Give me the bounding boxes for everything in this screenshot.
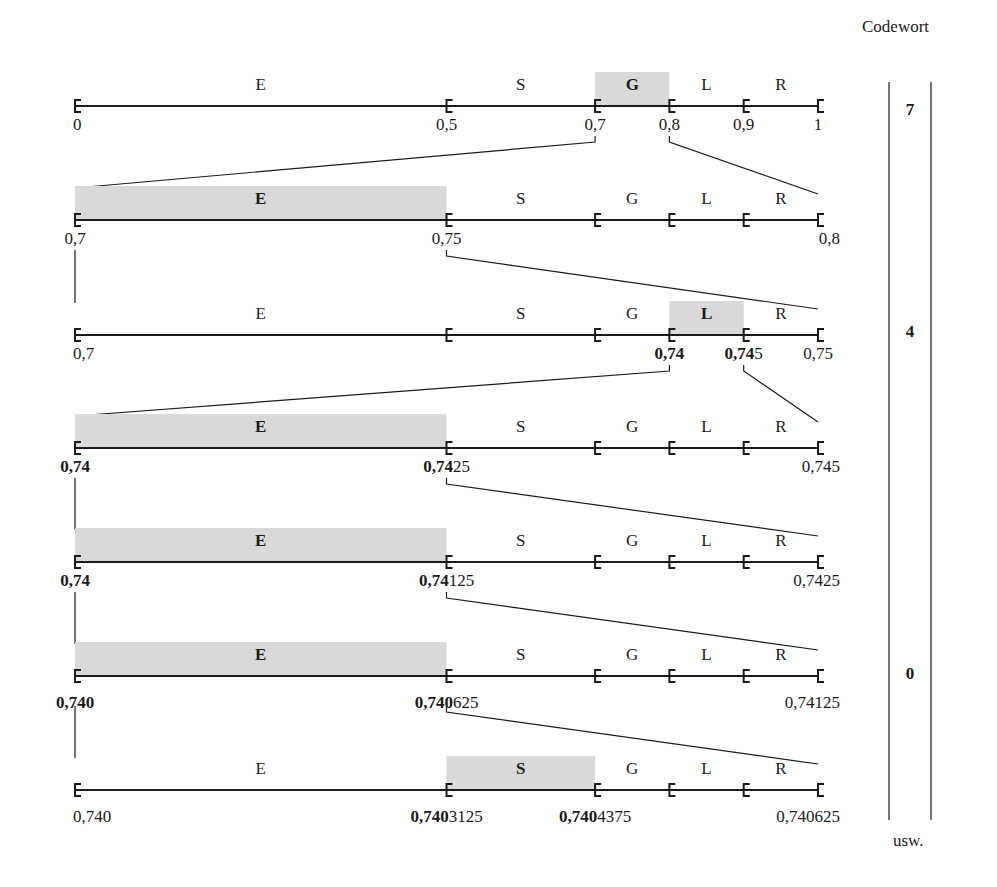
symbol-label-L: L xyxy=(701,532,711,549)
symbol-label-R: R xyxy=(775,76,786,93)
zoom-connector-left xyxy=(75,136,595,188)
codeword-digit: 0 xyxy=(906,664,915,684)
symbol-label-R: R xyxy=(775,532,786,549)
symbol-label-S: S xyxy=(516,305,525,322)
boundary-value-label: 0,74 xyxy=(655,345,685,362)
symbol-label-G: G xyxy=(626,532,638,549)
zoom-connector-right xyxy=(744,365,818,422)
boundary-value-label: 0,74 xyxy=(60,458,90,475)
symbol-label-S: S xyxy=(516,646,525,663)
boundary-value-label: 0,8 xyxy=(819,230,840,247)
symbol-label-G: G xyxy=(626,760,638,777)
symbol-label-S: S xyxy=(516,190,525,207)
boundary-value-label: 0,75 xyxy=(432,230,462,247)
symbol-label-E: E xyxy=(256,760,266,777)
symbol-label-E: E xyxy=(256,76,266,93)
symbol-label-G: G xyxy=(626,646,638,663)
boundary-value-label: 0,74125 xyxy=(785,694,840,711)
symbol-label-S: S xyxy=(516,76,525,93)
symbol-label-R: R xyxy=(775,760,786,777)
interval-bracket-tick xyxy=(818,556,824,568)
zoom-connector-right xyxy=(447,478,819,536)
symbol-label-E: E xyxy=(255,190,266,207)
zoom-connector-right xyxy=(447,250,819,309)
zoom-connector-right xyxy=(447,592,819,650)
interval-bracket-tick xyxy=(818,670,824,682)
arithmetic-coding-diagram xyxy=(0,0,997,887)
boundary-value-label: 0,7 xyxy=(584,116,605,133)
symbol-label-G: G xyxy=(626,418,638,435)
boundary-value-label: 1 xyxy=(814,116,823,133)
symbol-label-S: S xyxy=(516,760,525,777)
boundary-value-label: 0,9 xyxy=(733,116,754,133)
boundary-value-label: 0,7403125 xyxy=(410,808,482,825)
interval-bracket-tick xyxy=(818,100,824,112)
symbol-label-E: E xyxy=(256,305,266,322)
interval-bracket-tick xyxy=(818,329,824,341)
symbol-label-L: L xyxy=(701,76,711,93)
symbol-label-L: L xyxy=(701,418,711,435)
boundary-value-label: 0,745 xyxy=(802,458,840,475)
symbol-label-R: R xyxy=(775,646,786,663)
symbol-label-R: R xyxy=(775,418,786,435)
boundary-value-label: 0,740625 xyxy=(415,694,479,711)
boundary-value-label: 0,740625 xyxy=(776,808,840,825)
interval-bracket-tick xyxy=(818,214,824,226)
boundary-value-label: 0,7404375 xyxy=(559,808,631,825)
symbol-label-E: E xyxy=(255,532,266,549)
symbol-label-R: R xyxy=(775,305,786,322)
zoom-connector-left xyxy=(75,365,669,416)
interval-bracket-tick xyxy=(818,442,824,454)
interval-bracket-tick xyxy=(818,784,824,796)
symbol-label-L: L xyxy=(701,305,712,322)
zoom-connector-right xyxy=(447,706,819,764)
symbol-label-G: G xyxy=(626,190,638,207)
boundary-value-label: 0,745 xyxy=(725,345,763,362)
zoom-connector-right xyxy=(669,136,818,194)
symbol-label-R: R xyxy=(775,190,786,207)
codeword-digit: 7 xyxy=(906,100,915,120)
boundary-value-label: 0,740 xyxy=(56,694,94,711)
boundary-value-label: 0,740 xyxy=(73,808,111,825)
symbol-label-E: E xyxy=(255,646,266,663)
codewort-header: Codewort xyxy=(862,18,929,35)
boundary-value-label: 0,7425 xyxy=(793,572,840,589)
symbol-label-E: E xyxy=(255,418,266,435)
boundary-value-label: 0 xyxy=(73,116,82,133)
boundary-value-label: 0,74125 xyxy=(419,572,474,589)
symbol-label-S: S xyxy=(516,532,525,549)
boundary-value-label: 0,5 xyxy=(436,116,457,133)
boundary-value-label: 0,7 xyxy=(64,230,85,247)
symbol-label-L: L xyxy=(701,190,711,207)
usw-label: usw. xyxy=(893,832,924,849)
symbol-label-G: G xyxy=(626,76,639,93)
boundary-value-label: 0,7425 xyxy=(423,458,470,475)
boundary-value-label: 0,75 xyxy=(803,345,833,362)
codeword-digit: 4 xyxy=(906,322,915,342)
boundary-value-label: 0,74 xyxy=(60,572,90,589)
symbol-label-G: G xyxy=(626,305,638,322)
boundary-value-label: 0,7 xyxy=(73,345,94,362)
symbol-label-L: L xyxy=(701,646,711,663)
boundary-value-label: 0,8 xyxy=(659,116,680,133)
symbol-label-S: S xyxy=(516,418,525,435)
symbol-label-L: L xyxy=(701,760,711,777)
